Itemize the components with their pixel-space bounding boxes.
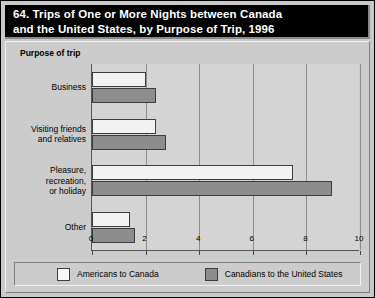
category-label: Other — [8, 222, 86, 233]
x-axis-tick-label: 0 — [89, 234, 93, 243]
x-axis-tick-label: 4 — [196, 234, 200, 243]
bar — [92, 165, 293, 180]
x-axis-tick — [306, 251, 307, 255]
x-axis-tick — [253, 251, 254, 255]
chart-legend: Americans to Canada Canadians to the Uni… — [14, 262, 361, 286]
chart-figure: 64. Trips of One or More Nights between … — [0, 0, 375, 298]
bar — [92, 119, 156, 134]
legend-item-label: Americans to Canada — [77, 269, 159, 279]
legend-item: Americans to Canada — [57, 268, 159, 281]
bar — [92, 88, 156, 103]
bar — [92, 135, 166, 150]
page-title: 64. Trips of One or More Nights between … — [5, 5, 368, 37]
category-label: Visiting friends and relatives — [8, 124, 86, 145]
x-axis-tick — [360, 251, 361, 255]
x-axis-tick-label: 6 — [250, 234, 254, 243]
bar — [92, 228, 135, 243]
chart-title-bar: 64. Trips of One or More Nights between … — [5, 5, 370, 39]
x-axis-tick-label: 2 — [142, 234, 146, 243]
gridline — [253, 64, 254, 250]
plot-area — [91, 64, 359, 251]
x-axis-tick-label: 8 — [303, 234, 307, 243]
gridline — [360, 64, 361, 250]
bar — [92, 181, 332, 196]
gridline — [306, 64, 307, 250]
chart-body-panel: Purpose of trip Millions of person-trips… — [5, 41, 370, 293]
group-axis-label: Purpose of trip — [20, 48, 80, 58]
legend-swatch-icon — [205, 268, 218, 281]
legend-item: Canadians to the United States — [205, 268, 343, 281]
legend-item-label: Canadians to the United States — [225, 269, 343, 279]
category-label: Pleasure, recreation, or holiday — [8, 165, 86, 197]
bar — [92, 72, 146, 87]
x-axis-tick — [146, 251, 147, 255]
category-label: Business — [8, 82, 86, 93]
bar — [92, 212, 130, 227]
x-axis-tick — [92, 251, 93, 255]
x-axis-tick — [199, 251, 200, 255]
legend-swatch-icon — [57, 268, 70, 281]
gridline — [199, 64, 200, 250]
x-axis-tick-label: 10 — [355, 234, 364, 243]
